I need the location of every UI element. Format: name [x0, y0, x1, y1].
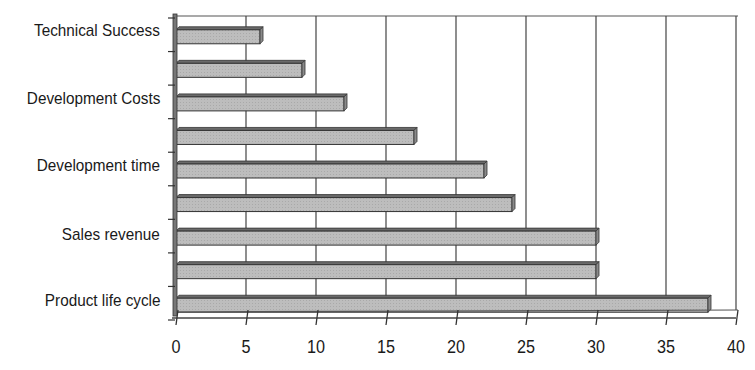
x-tick-25: 25: [508, 337, 544, 358]
bar: [176, 161, 487, 178]
bar: [176, 295, 711, 312]
category-label-development-costs: Development Costs: [26, 89, 160, 109]
bars: [176, 27, 711, 312]
bar: [176, 127, 417, 144]
bar: [176, 195, 515, 212]
category-label-sales-revenue: Sales revenue: [62, 225, 160, 245]
category-label-product-life-cycle: Product life cycle: [44, 291, 160, 311]
x-tick-35: 35: [648, 337, 684, 358]
bar: [176, 262, 599, 279]
bar: [176, 60, 305, 77]
x-tick-30: 30: [578, 337, 614, 358]
x-tick-20: 20: [438, 337, 474, 358]
bar: [176, 228, 599, 245]
bar: [176, 27, 263, 44]
category-label-development-time: Development time: [37, 156, 160, 176]
category-label-technical-success: Technical Success: [34, 21, 160, 41]
x-tick-0: 0: [158, 337, 194, 358]
x-tick-5: 5: [228, 337, 264, 358]
bar: [176, 94, 347, 111]
chart-plot-area: [0, 0, 755, 370]
x-tick-10: 10: [298, 337, 334, 358]
x-tick-40: 40: [718, 337, 754, 358]
x-tick-15: 15: [368, 337, 404, 358]
